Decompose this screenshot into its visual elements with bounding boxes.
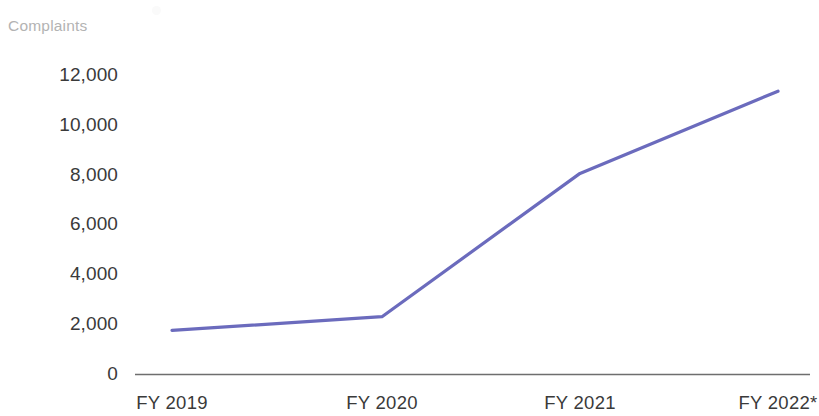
series-line-complaints [172,91,778,330]
x-axis-tick-label: FY 2019 [136,392,208,414]
x-axis-tick-label: FY 2022* [738,392,817,414]
line-chart: Complaints 12,000 10,000 8,000 6,000 4,0… [0,0,819,416]
x-axis-tick-label: FY 2021 [544,392,616,414]
plot-area [0,0,819,416]
x-axis-tick-label: FY 2020 [346,392,418,414]
